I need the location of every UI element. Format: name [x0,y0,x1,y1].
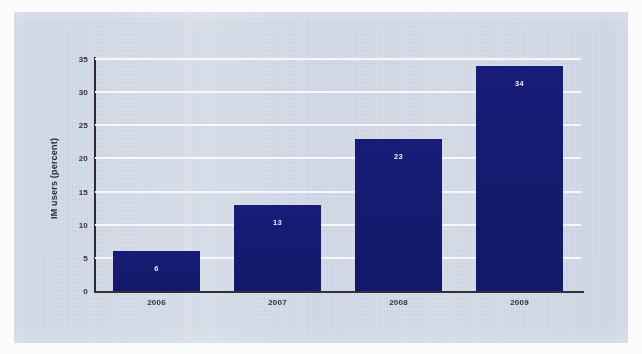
y-axis-tick-label: 20 [79,154,88,163]
y-axis-tick-label: 10 [79,220,88,229]
bar: 6 [113,251,200,291]
category-slot: 2009 [476,290,563,291]
y-axis-title: IM users (percent) [46,118,62,238]
category-slot: 2006 [113,290,200,291]
y-axis-tick-label: 25 [79,121,88,130]
y-axis-tick-label: 30 [79,88,88,97]
x-axis-line [94,291,584,293]
bar-value-label: 23 [355,152,442,161]
category-slot: 2007 [234,290,321,291]
bar-value-label: 13 [234,218,321,227]
y-axis-tick-label: 5 [83,253,88,262]
y-axis-tick-label: 15 [79,187,88,196]
x-axis-category-label: 2008 [355,298,442,307]
figure: IM users (percent) 05101520253035 620061… [0,0,642,354]
plot-area: 05101520253035 62006132007232008342009 [95,59,581,291]
y-axis-tick-label: 35 [79,55,88,64]
bar: 34 [476,66,563,291]
gridline [95,58,581,60]
x-axis-category-label: 2006 [113,298,200,307]
y-axis-tick-label: 0 [83,287,88,296]
bar-value-label: 6 [113,264,200,273]
category-slot: 2008 [355,290,442,291]
x-axis-category-label: 2009 [476,298,563,307]
bar-value-label: 34 [476,79,563,88]
x-axis-category-label: 2007 [234,298,321,307]
bar: 23 [355,139,442,291]
bar: 13 [234,205,321,291]
